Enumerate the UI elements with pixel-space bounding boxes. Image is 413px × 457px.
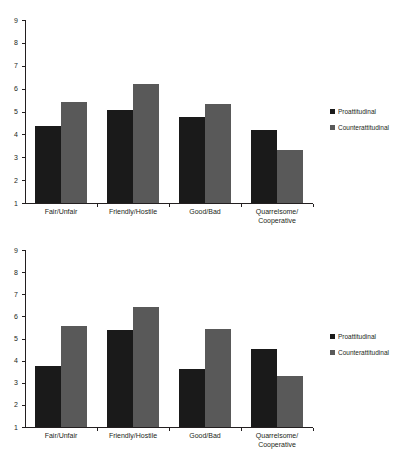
x-axis-tick: [97, 428, 98, 431]
y-axis-tick: [22, 20, 25, 21]
x-axis-tick: [169, 204, 170, 207]
x-axis-category-label: Good/Bad: [169, 432, 241, 441]
y-axis-tick: [22, 427, 25, 428]
y-axis-tick: [22, 316, 25, 317]
bar-proattitudinal: [251, 349, 277, 427]
y-axis-tick: [22, 66, 25, 67]
y-axis-tick-label: 4: [6, 357, 18, 364]
plot-area-top: 123456789Fair/UnfairFriendly/HostileGood…: [0, 0, 320, 230]
bar-counterattitudinal: [205, 104, 231, 203]
legend-item-counterattitudinal: Counterattitudinal: [330, 124, 413, 131]
y-axis-tick-label: 9: [6, 17, 18, 24]
y-axis-tick-label: 8: [6, 39, 18, 46]
bar-counterattitudinal: [277, 376, 303, 427]
y-axis-tick-label: 5: [6, 335, 18, 342]
legend-swatch-icon-counterattitudinal: [330, 125, 335, 130]
legend-item-proattitudinal: Proattitudinal: [330, 333, 413, 340]
bar-counterattitudinal: [61, 102, 87, 203]
x-axis-category-label: Friendly/Hostile: [97, 432, 169, 441]
legend-item-proattitudinal: Proattitudinal: [330, 108, 413, 115]
legend-bottom: Proattitudinal Counterattitudinal: [330, 333, 413, 365]
bar-counterattitudinal: [277, 150, 303, 203]
x-axis-category-label: Friendly/Hostile: [97, 208, 169, 217]
legend-item-counterattitudinal: Counterattitudinal: [330, 349, 413, 356]
x-axis-category-label: Good/Bad: [169, 208, 241, 217]
chart-bottom: 123456789Fair/UnfairFriendly/HostileGood…: [0, 230, 413, 457]
y-axis-tick: [22, 405, 25, 406]
y-axis-tick: [22, 383, 25, 384]
y-axis-tick-label: 7: [6, 62, 18, 69]
x-axis-tick: [241, 428, 242, 431]
x-axis-category-label: Quarrelsome/ Cooperative: [241, 208, 313, 225]
y-axis-tick-label: 6: [6, 313, 18, 320]
x-axis-tick: [241, 204, 242, 207]
y-axis-tick-label: 9: [6, 247, 18, 254]
y-axis-tick-label: 6: [6, 85, 18, 92]
figure-page: 123456789Fair/UnfairFriendly/HostileGood…: [0, 0, 413, 457]
legend-label-proattitudinal: Proattitudinal: [338, 108, 376, 115]
bar-proattitudinal: [251, 130, 277, 203]
bar-proattitudinal: [107, 330, 133, 427]
y-axis-tick: [22, 294, 25, 295]
y-axis-tick: [22, 361, 25, 362]
legend-label-proattitudinal: Proattitudinal: [338, 333, 376, 340]
bar-counterattitudinal: [133, 84, 159, 203]
y-axis-tick-label: 1: [6, 424, 18, 431]
legend-swatch-icon-counterattitudinal: [330, 350, 335, 355]
y-axis-tick-label: 5: [6, 108, 18, 115]
bar-counterattitudinal: [133, 307, 159, 427]
bar-counterattitudinal: [205, 329, 231, 427]
plot-area-bottom: 123456789Fair/UnfairFriendly/HostileGood…: [0, 230, 320, 457]
y-axis-tick-label: 7: [6, 291, 18, 298]
y-axis-tick: [22, 112, 25, 113]
x-axis-tick: [313, 428, 314, 431]
y-axis-tick: [22, 250, 25, 251]
legend-swatch-icon-proattitudinal: [330, 109, 335, 114]
x-axis-tick: [313, 204, 314, 207]
y-axis-tick-label: 4: [6, 131, 18, 138]
bar-proattitudinal: [179, 369, 205, 427]
legend-label-counterattitudinal: Counterattitudinal: [338, 124, 389, 131]
legend-label-counterattitudinal: Counterattitudinal: [338, 349, 389, 356]
bars-layer-bottom: [0, 230, 320, 457]
y-axis-tick: [22, 43, 25, 44]
y-axis-tick-label: 1: [6, 200, 18, 207]
y-axis-tick-label: 2: [6, 401, 18, 408]
y-axis-tick-label: 3: [6, 154, 18, 161]
legend-swatch-icon-proattitudinal: [330, 334, 335, 339]
y-axis-tick-label: 3: [6, 379, 18, 386]
y-axis-tick: [22, 134, 25, 135]
y-axis-tick: [22, 339, 25, 340]
y-axis-tick: [22, 180, 25, 181]
bar-proattitudinal: [35, 126, 61, 203]
y-axis-tick: [22, 272, 25, 273]
x-axis-tick: [169, 428, 170, 431]
x-axis-category-label: Fair/Unfair: [25, 208, 97, 217]
x-axis-tick: [97, 204, 98, 207]
x-axis-category-label: Fair/Unfair: [25, 432, 97, 441]
y-axis-tick-label: 8: [6, 269, 18, 276]
chart-top: 123456789Fair/UnfairFriendly/HostileGood…: [0, 0, 413, 230]
y-axis-tick: [22, 89, 25, 90]
y-axis-tick: [22, 203, 25, 204]
bar-counterattitudinal: [61, 326, 87, 427]
y-axis-tick-label: 2: [6, 177, 18, 184]
x-axis-category-label: Quarrelsome/ Cooperative: [241, 432, 313, 449]
bar-proattitudinal: [179, 117, 205, 203]
bars-layer-top: [0, 0, 320, 230]
legend-top: Proattitudinal Counterattitudinal: [330, 108, 413, 140]
bar-proattitudinal: [107, 110, 133, 203]
bar-proattitudinal: [35, 366, 61, 427]
y-axis-tick: [22, 157, 25, 158]
